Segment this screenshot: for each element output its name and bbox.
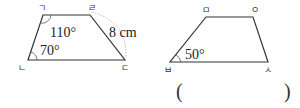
answer-open-paren: ( <box>176 80 183 103</box>
angle-arc-bottom-left-1 <box>31 52 37 60</box>
angle-label-110: 110° <box>50 25 76 40</box>
vertex-label-bottom-left-1: ㄴ <box>18 63 26 73</box>
answer-close-paren: ) <box>284 80 291 103</box>
vertex-label-top-right-2: ㅇ <box>251 5 259 15</box>
trapezoid-1: ㄱ ㄹ ㄷ ㄴ 110° 70° 8 cm <box>18 3 137 73</box>
angle-arc-bottom-left-2 <box>176 55 181 62</box>
vertex-label-top-right-1: ㄹ <box>88 3 96 13</box>
vertex-label-bottom-right-1: ㄷ <box>121 63 129 73</box>
vertex-label-top-left-2: ㅁ <box>202 5 210 15</box>
trapezoid-2: ㅁ ㅇ ㅅ ㅂ 50° <box>164 5 272 75</box>
vertex-label-bottom-right-2: ㅅ <box>264 65 272 75</box>
vertex-label-bottom-left-2: ㅂ <box>164 65 172 75</box>
vertex-label-top-left-1: ㄱ <box>38 3 46 13</box>
side-length-label: 8 cm <box>109 25 137 40</box>
answer-blank[interactable] <box>188 84 280 102</box>
angle-label-70: 70° <box>40 43 60 58</box>
angle-label-50: 50° <box>185 47 205 62</box>
